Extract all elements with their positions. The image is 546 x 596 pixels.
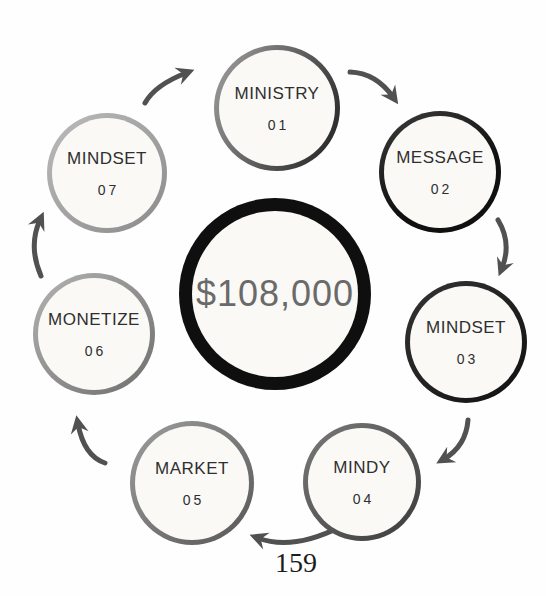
step-number: 06 [82, 343, 107, 359]
step-label: MINDSET [67, 149, 147, 169]
arrow-step3-to-step4 [444, 420, 468, 459]
page-number: 159 [275, 547, 317, 579]
step-number: 02 [428, 181, 453, 197]
center-circle: $108,000 [179, 198, 371, 390]
step-circle-06-face: MONETIZE 06 [38, 278, 150, 390]
step-circle-04: MINDY 04 [303, 423, 421, 541]
step-number: 07 [95, 182, 120, 198]
arrow-step2-to-step3 [498, 220, 506, 268]
step-circle-06: MONETIZE 06 [33, 273, 155, 395]
step-circle-05-face: MARKET 05 [135, 426, 249, 540]
center-amount: $108,000 [196, 273, 354, 315]
step-circle-07-face: MINDSET 07 [52, 118, 162, 228]
step-circle-01: MINISTRY 01 [214, 45, 340, 171]
step-label: MARKET [155, 459, 229, 479]
step-label: MINDY [333, 458, 390, 478]
arrow-step5-to-step6 [78, 424, 105, 463]
step-circle-03-face: MINDSET 03 [410, 286, 522, 398]
arrow-step7-to-step1 [145, 73, 186, 103]
arrow-step1-to-step2 [350, 72, 393, 97]
step-number: 01 [265, 117, 290, 133]
step-circle-02-face: MESSAGE 02 [384, 116, 496, 228]
step-circle-01-face: MINISTRY 01 [219, 50, 335, 166]
step-label: MINISTRY [235, 84, 320, 104]
step-circle-03: MINDSET 03 [405, 281, 527, 403]
step-number: 05 [180, 492, 205, 508]
book-page: $108,000 MINISTRY 01 MESSAGE 02 MINDSET … [0, 0, 546, 596]
step-label: MESSAGE [396, 148, 484, 168]
step-circle-05: MARKET 05 [130, 421, 254, 545]
step-number: 03 [454, 351, 479, 367]
step-circle-04-face: MINDY 04 [308, 428, 416, 536]
step-circle-07: MINDSET 07 [47, 113, 167, 233]
step-label: MONETIZE [48, 310, 140, 330]
step-circle-02: MESSAGE 02 [379, 111, 501, 233]
center-circle-face: $108,000 [192, 211, 358, 377]
step-number: 04 [350, 491, 375, 507]
step-label: MINDSET [426, 318, 506, 338]
arrow-step6-to-step7 [34, 220, 41, 276]
